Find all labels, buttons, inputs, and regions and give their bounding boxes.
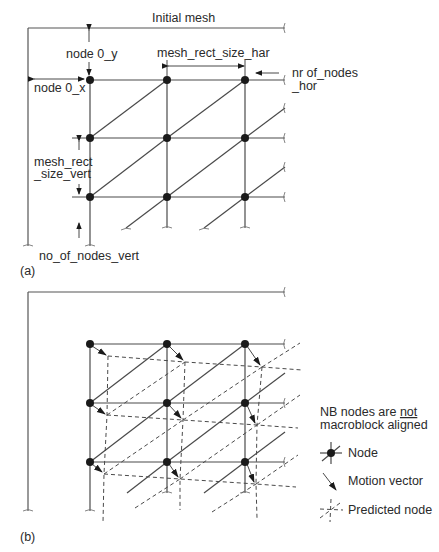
motion-vector-icon [323, 473, 336, 490]
node-icon [86, 76, 94, 84]
legend-item-motion-vector: Motion vector [323, 473, 423, 490]
node-icon [241, 76, 249, 84]
rect-size-vert-label-2: _size_vert [33, 167, 91, 181]
node-icon [163, 193, 171, 201]
node-icon [241, 134, 249, 142]
panel-b-label: (b) [20, 530, 35, 544]
motion-vector-icon [92, 346, 106, 355]
legend-item-node: Node [320, 442, 378, 464]
node-icon [86, 134, 94, 142]
node0-x-label: node 0_x [34, 81, 86, 95]
node-icon [86, 340, 94, 348]
node-icon [86, 399, 94, 407]
legend: Node Motion vector Predicted node [320, 442, 432, 522]
motion-vector-icon [247, 464, 254, 482]
node0-y-label: node 0_y [66, 47, 118, 61]
motion-vector-icon [169, 464, 178, 477]
node-icon [163, 399, 171, 407]
panel-a: Initial mesh [20, 11, 358, 278]
nodes-hor-label-1: nr of_nodes [292, 66, 358, 80]
panel-a-label: (a) [20, 264, 35, 278]
node-icon [241, 399, 249, 407]
note-line-1: NB nodes are not [320, 405, 418, 419]
panel-a-title: Initial mesh [152, 11, 215, 25]
node-icon [163, 134, 171, 142]
rect-size-vert-dimension: mesh_rect _size_vert [33, 138, 93, 197]
node-icon [163, 340, 171, 348]
node-icon [86, 193, 94, 201]
mesh-a-diagonal [90, 80, 285, 230]
mesh-motion-diagram: Initial mesh [0, 0, 439, 552]
panel-b: NB nodes are not macroblock aligned Node… [20, 287, 432, 544]
motion-vector-icon [247, 346, 260, 365]
nodes-vert-annotation: no_of_nodes_vert [39, 223, 140, 263]
mesh-a-horizontal [90, 75, 285, 202]
node0-y-dimension: node 0_y [66, 30, 118, 75]
legend-label-motion-vector: Motion vector [348, 474, 423, 488]
motion-vector-icon [169, 405, 181, 418]
motion-vector-icon [92, 405, 105, 414]
node-icon [86, 458, 94, 466]
legend-label-predicted-node: Predicted node [348, 503, 432, 517]
node0-x-dimension: node 0_x [34, 79, 86, 95]
rect-size-hor-label: mesh_rect_size_har [157, 46, 270, 60]
mesh-a-vertical [85, 80, 250, 246]
node-icon [163, 458, 171, 466]
node-icon [241, 340, 249, 348]
node-icon [241, 458, 249, 466]
motion-vector-icon [247, 405, 255, 423]
predicted-node-icon [320, 499, 343, 522]
note-line-2: macroblock aligned [320, 418, 428, 432]
motion-vector-icon [169, 346, 183, 360]
alignment-note: NB nodes are not macroblock aligned [320, 405, 428, 432]
mesh-b-vertical [85, 344, 250, 511]
node-icon [320, 442, 342, 464]
node-icon [163, 76, 171, 84]
node-icon [241, 193, 249, 201]
legend-label-node: Node [348, 446, 378, 460]
nodes-hor-label-2: _hor [291, 79, 317, 93]
legend-item-predicted-node: Predicted node [320, 499, 432, 522]
motion-vector-icon [92, 464, 102, 472]
nodes-vert-label: no_of_nodes_vert [39, 249, 140, 263]
rect-size-hor-dimension: mesh_rect_size_har [157, 46, 270, 76]
